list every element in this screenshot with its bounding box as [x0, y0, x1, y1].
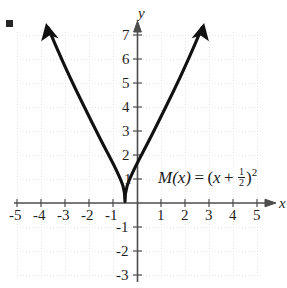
y-axis-arrowhead: [134, 21, 142, 32]
right-branch-arrowhead: [192, 23, 209, 41]
equation-exponent: 2: [252, 166, 258, 178]
y-tick-label-5: 5: [122, 76, 130, 91]
y-tick-label-neg2: -2: [116, 244, 129, 259]
y-tick-label-2: 2: [122, 148, 130, 163]
y-tick-label-neg1: -1: [116, 220, 129, 235]
x-axis-arrowhead: [265, 199, 276, 207]
x-tick-label-2: 2: [181, 208, 189, 223]
x-tick-label-5: 5: [253, 208, 261, 223]
y-tick-label-4: 4: [122, 100, 130, 115]
y-tick-label-neg3: -3: [116, 268, 129, 283]
figure-container: -5 -4 -3 -2 -1 1 2 3 4 5 7 6 5 4 3 2 1 -…: [0, 0, 287, 288]
y-tick-label-3: 3: [122, 124, 130, 139]
equation-variable: x: [213, 168, 221, 187]
y-tick-label-6: 6: [122, 52, 130, 67]
x-tick-label-1: 1: [157, 208, 165, 223]
x-axis-label: x: [279, 196, 286, 211]
x-tick-label-4: 4: [229, 208, 237, 223]
equation-lhs: M(x): [158, 168, 191, 187]
fraction-denominator: 2: [238, 177, 245, 188]
x-tick-label-neg3: -3: [57, 208, 70, 223]
equation-fraction-one-half: 12: [238, 167, 245, 188]
left-branch-arrowhead: [41, 23, 58, 41]
equation-equals: =: [194, 168, 204, 187]
y-tick-label-1: 1: [124, 172, 132, 187]
graph-canvas: [0, 0, 287, 288]
equation-plus: +: [224, 168, 234, 187]
x-tick-label-neg5: -5: [9, 208, 22, 223]
y-tick-label-7: 7: [122, 28, 130, 43]
y-axis-label: y: [138, 6, 145, 21]
x-tick-label-neg2: -2: [81, 208, 94, 223]
x-tick-label-neg4: -4: [33, 208, 46, 223]
function-equation-label: M(x) = (x + 12)2: [158, 166, 257, 188]
fraction-numerator: 1: [238, 167, 245, 177]
x-tick-label-3: 3: [205, 208, 213, 223]
